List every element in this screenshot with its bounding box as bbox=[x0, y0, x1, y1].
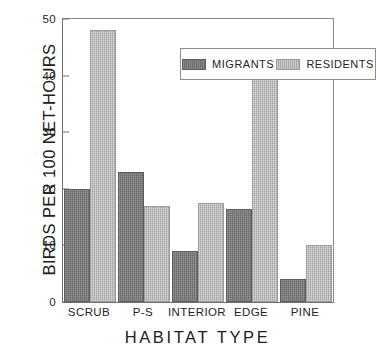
x-axis-title: HABITAT TYPE bbox=[60, 328, 335, 347]
legend-entry-migrants: MIGRANTS bbox=[182, 58, 274, 70]
legend-swatch-residents-icon bbox=[276, 59, 300, 70]
y-axis-tick-label: 40 bbox=[43, 70, 63, 82]
legend-swatch-migrants-icon bbox=[182, 59, 206, 70]
bar-scrub-residents bbox=[90, 30, 116, 302]
x-axis-label-edge: EDGE bbox=[234, 306, 268, 318]
y-axis-tick-label: 50 bbox=[43, 13, 63, 25]
bar-pine-migrants bbox=[280, 279, 306, 302]
bar-edge-migrants bbox=[226, 209, 252, 302]
y-axis-tick-label: 30 bbox=[43, 126, 63, 138]
plot-area: 01020304050 MIGRANTS RESIDENTS bbox=[62, 18, 334, 303]
y-axis-title: BIRDS PER 100 NET-HOURS bbox=[40, 15, 59, 305]
y-axis-tick-label: 0 bbox=[49, 296, 63, 308]
y-axis-tick-label: 20 bbox=[43, 183, 63, 195]
legend-label-migrants: MIGRANTS bbox=[212, 58, 274, 70]
bar-p-s-migrants bbox=[118, 172, 144, 302]
legend-label-residents: RESIDENTS bbox=[306, 58, 373, 70]
y-axis-tick-label: 10 bbox=[43, 239, 63, 251]
x-axis-label-pine: PINE bbox=[291, 306, 319, 318]
bar-interior-residents bbox=[198, 203, 224, 302]
bar-edge-residents bbox=[252, 76, 278, 302]
bar-scrub-migrants bbox=[64, 189, 90, 302]
bar-pine-residents bbox=[306, 245, 332, 302]
bar-p-s-residents bbox=[144, 206, 170, 302]
x-axis-label-scrub: SCRUB bbox=[68, 306, 110, 318]
chart-legend: MIGRANTS RESIDENTS bbox=[180, 48, 376, 80]
x-axis-label-interior: INTERIOR bbox=[168, 306, 226, 318]
legend-entry-residents: RESIDENTS bbox=[276, 58, 373, 70]
x-axis-label-p-s: P-S bbox=[133, 306, 153, 318]
bar-interior-migrants bbox=[172, 251, 198, 302]
